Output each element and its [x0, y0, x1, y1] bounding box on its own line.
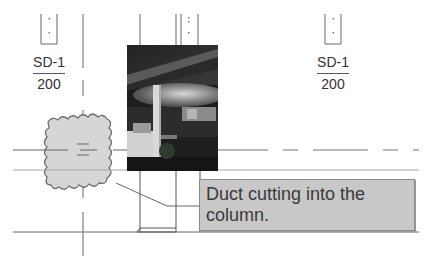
drawing-canvas: SD-1 200 SD-1 200: [0, 0, 429, 263]
duct-tag-right: SD-1 200: [313, 54, 353, 92]
site-photo: [127, 45, 218, 171]
duct-centerline: [218, 150, 419, 170]
duct-tag-size: 200: [33, 73, 65, 92]
duct-tag-size: 200: [317, 73, 349, 92]
duct-tag-left: SD-1 200: [29, 54, 69, 92]
duct-symbol-middle: [140, 14, 198, 45]
duct-symbol-right: [325, 14, 341, 44]
column-outline: [137, 171, 200, 232]
leader-line: [116, 183, 199, 206]
duct-tag-label: SD-1: [313, 54, 353, 70]
duct-tag-label: SD-1: [29, 54, 69, 70]
clash-callout: Duct cutting into the column.: [199, 179, 415, 231]
duct-symbol-left: [41, 14, 57, 44]
revision-cloud: [45, 114, 112, 189]
